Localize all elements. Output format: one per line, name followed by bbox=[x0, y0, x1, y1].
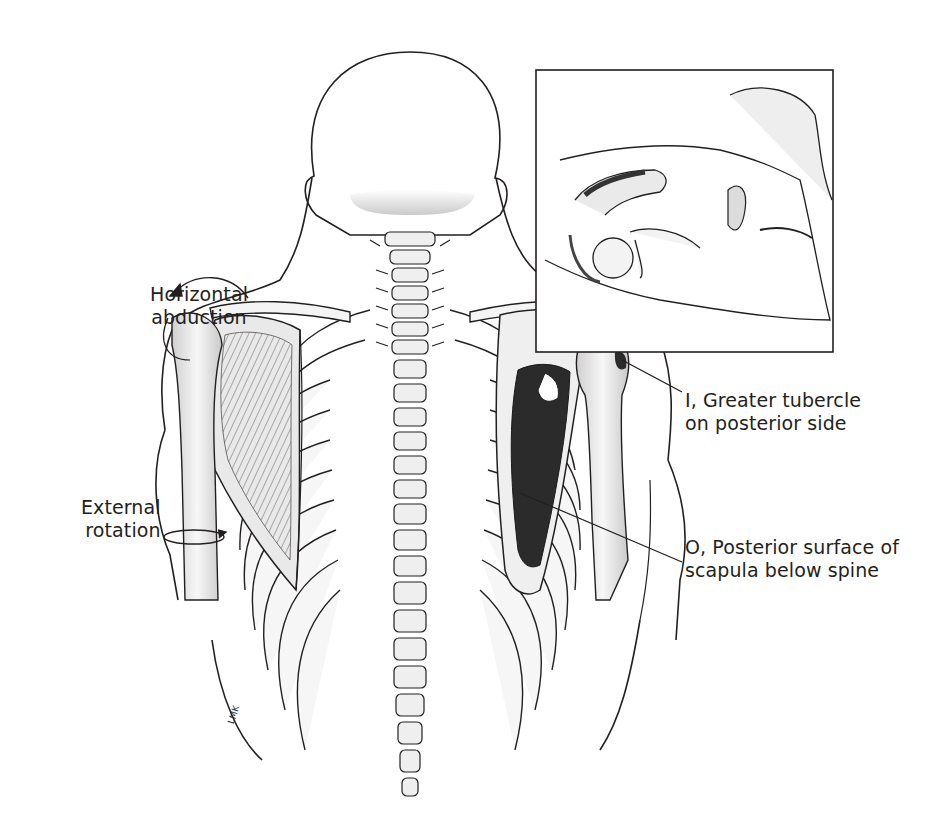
label-origin: O, Posterior surface of scapula below sp… bbox=[685, 536, 899, 582]
right-humerus bbox=[576, 337, 628, 600]
label-insertion: I, Greater tubercle on posterior side bbox=[685, 389, 861, 435]
inset-figure bbox=[536, 70, 833, 352]
label-horizontal-abduction: Horizontal abduction bbox=[150, 283, 248, 329]
label-external-rotation: External rotation bbox=[81, 496, 161, 542]
spine bbox=[385, 232, 435, 796]
left-humerus bbox=[164, 313, 222, 600]
